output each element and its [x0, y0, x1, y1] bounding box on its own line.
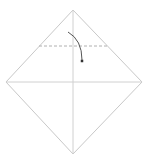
arrow-head-icon [81, 60, 84, 63]
origami-diagram [0, 0, 150, 165]
